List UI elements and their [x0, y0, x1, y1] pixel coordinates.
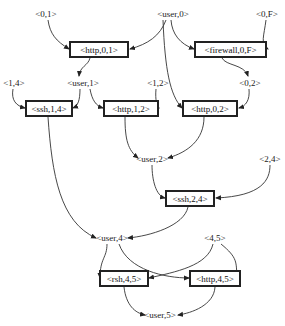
state-node: <0,2>: [239, 78, 260, 88]
edge-arrow: [130, 20, 166, 49]
action-node: <http,4,5>: [189, 270, 241, 287]
edge-arrow: [216, 165, 270, 198]
state-node: <user,5>: [144, 310, 176, 320]
edge-arrow: [152, 165, 165, 198]
state-node: <1,2>: [147, 78, 168, 88]
edge-arrow: [90, 89, 103, 108]
edge-arrow: [48, 117, 96, 238]
state-node: <user,0>: [157, 9, 189, 19]
edge-arrow: [178, 287, 215, 315]
attack-graph-canvas: <0,1><user,0><0,F><1,4><user,1><1,2><0,2…: [0, 0, 285, 326]
edge-arrow: [13, 89, 25, 108]
action-node: <firewall,0,F>: [194, 41, 267, 58]
edge-arrow: [222, 58, 248, 76]
edge-arrow: [168, 117, 204, 158]
state-node: <4,5>: [204, 233, 225, 243]
edge-arrow: [171, 20, 194, 49]
state-node: <user,4>: [96, 233, 128, 243]
edge-arrow: [124, 287, 145, 315]
edge-arrow: [128, 207, 188, 238]
state-node: <0,1>: [35, 9, 56, 19]
edge-arrow: [73, 89, 80, 108]
state-node: <user,1>: [67, 78, 99, 88]
state-node: <1,4>: [3, 78, 24, 88]
action-node: <http,1,2>: [103, 100, 159, 117]
state-node: <2,4>: [259, 154, 280, 164]
action-node: <http,0,2>: [182, 100, 238, 117]
edge-arrow: [79, 58, 90, 76]
edge-arrow: [125, 117, 138, 158]
action-node: <http,0,1>: [69, 41, 129, 58]
edge-arrow: [163, 20, 182, 108]
state-node: <user,2>: [136, 154, 168, 164]
edge-arrow: [239, 89, 249, 108]
action-node: <ssh,2,4>: [165, 190, 215, 207]
action-node: <rsh,4,5>: [99, 270, 149, 287]
action-node: <ssh,1,4>: [25, 100, 73, 117]
state-node: <0,F>: [256, 9, 278, 19]
edge-arrow: [48, 20, 69, 49]
